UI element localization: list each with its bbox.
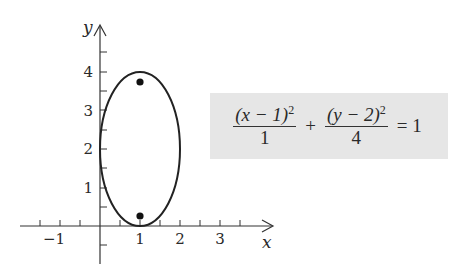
y-tick-label: 4 <box>83 63 93 81</box>
plus-sign: + <box>305 115 316 137</box>
focus-point-lower <box>136 212 143 219</box>
exponent-y: 2 <box>380 103 386 117</box>
denominator-x: 1 <box>260 127 270 149</box>
numerator-y-base: (y − 2) <box>327 104 380 125</box>
y-tick-label: 1 <box>83 179 93 197</box>
numerator-x: (x − 1)2 <box>233 104 296 127</box>
fraction-x-term: (x − 1)2 1 <box>233 104 296 149</box>
y-axis-label: y <box>82 17 93 37</box>
focus-point-upper <box>136 78 143 85</box>
x-tick-label: 2 <box>175 230 185 248</box>
y-tick-label: 3 <box>83 102 93 120</box>
y-ticks <box>100 52 107 245</box>
x-axis-label: x <box>262 232 272 252</box>
equals-one: = 1 <box>397 115 422 137</box>
equation-box: (x − 1)2 1 + (y − 2)2 4 = 1 <box>210 93 448 159</box>
denominator-y: 4 <box>352 127 362 149</box>
x-tick-label: 3 <box>215 230 225 248</box>
ellipse-curve <box>100 72 180 226</box>
numerator-y: (y − 2)2 <box>325 104 388 127</box>
x-tick-label: −1 <box>43 230 65 248</box>
ellipse-equation: (x − 1)2 1 + (y − 2)2 4 = 1 <box>210 93 448 159</box>
x-tick-label: 1 <box>135 230 145 248</box>
numerator-x-base: (x − 1) <box>235 104 288 125</box>
y-tick-label: 2 <box>83 140 93 158</box>
exponent-x: 2 <box>288 103 294 117</box>
x-tick-labels: −1 1 2 3 <box>43 230 225 248</box>
fraction-y-term: (y − 2)2 4 <box>325 104 388 149</box>
y-tick-labels: 1 2 3 4 <box>83 63 93 197</box>
